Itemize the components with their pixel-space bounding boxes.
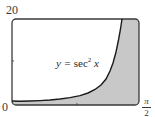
origin-label: 0 [2,101,8,113]
y-axis-max-label: 20 [6,4,18,16]
equation-arg: x [91,57,99,69]
function-equation-label: y = sec2 x [56,57,99,69]
equation-lhs: y = [56,57,74,69]
x-axis-max-label: π 2 [142,97,151,117]
x-max-numerator: π [142,97,151,108]
x-max-denominator: 2 [142,108,151,117]
equation-fn: sec [74,57,88,69]
